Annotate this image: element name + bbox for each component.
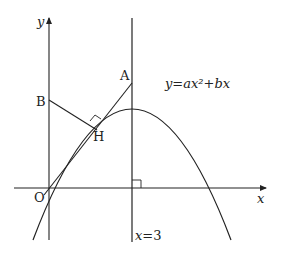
point-B-label: B xyxy=(36,94,46,109)
origin-label: O xyxy=(34,190,45,205)
line-x3-label: x=3 xyxy=(135,228,162,243)
x-axis-label: x xyxy=(257,191,265,206)
diagram-canvas: y x O A B H y=ax²+bx x=3 xyxy=(0,0,283,255)
right-angle-mark-H xyxy=(90,115,101,121)
point-A-label: A xyxy=(119,68,130,83)
right-angle-mark-axis xyxy=(132,180,141,188)
point-H-label: H xyxy=(93,129,104,144)
y-axis-label: y xyxy=(36,14,45,29)
segment-BH xyxy=(49,100,97,130)
segment-OA xyxy=(44,83,132,195)
diagram-svg: y x O A B H y=ax²+bx x=3 xyxy=(0,0,283,255)
curve-equation-label: y=ax²+bx xyxy=(164,76,231,91)
